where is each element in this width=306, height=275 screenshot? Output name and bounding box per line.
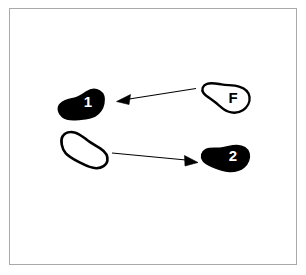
footprint-1-label: 1 — [84, 93, 92, 110]
footprint-2: 2 — [202, 145, 250, 171]
footprint-start — [61, 132, 107, 168]
footprint-2-shape — [202, 145, 250, 171]
footprint-1-shape — [58, 89, 104, 120]
arrow-start-to-2-shaft — [112, 153, 186, 160]
arrow-start-to-2-head — [185, 156, 199, 167]
footprint-f-shape — [202, 83, 249, 113]
footprint-2-label: 2 — [229, 147, 237, 164]
footprint-f-label: F — [228, 89, 237, 106]
figure-root: 1 F 2 1 F 2 Footstep movement diagr — [0, 0, 306, 275]
arrow-f-to-1-shaft — [126, 89, 196, 100]
footprint-1: 1 — [58, 89, 104, 120]
arrow-start-to-2 — [112, 153, 198, 166]
footstep-diagram-canvas: 1 F 2 — [0, 0, 306, 275]
footprint-start-shape — [61, 132, 107, 168]
arrow-f-to-1 — [117, 89, 197, 105]
footprint-f: F — [202, 83, 249, 113]
arrow-f-to-1-head — [117, 95, 131, 105]
